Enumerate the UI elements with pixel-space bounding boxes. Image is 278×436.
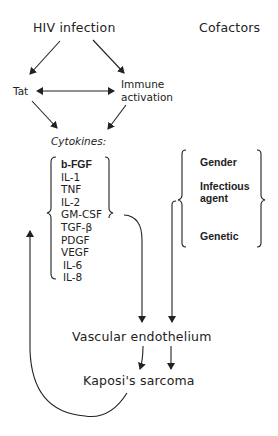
cofactor-brace-right [257, 150, 265, 247]
arrow-immune-to-cytokines [108, 105, 126, 129]
arrow-vascular-to-kaposi-left [140, 346, 143, 369]
cofactor-brace-left [178, 150, 186, 247]
arrow-feedback-loop [30, 231, 127, 417]
arrow-hiv-to-immune [93, 40, 124, 73]
arrow-hiv-to-tat [30, 41, 60, 74]
arrow-tat-to-cytokines [32, 101, 57, 128]
arrow-cofactors-to-vascular [172, 201, 176, 322]
pathogenesis-diagram: HIV infection Cofactors Tat Immune activ… [0, 0, 278, 436]
cytokine-brace-left [47, 157, 56, 279]
arrows-layer [0, 0, 278, 436]
arrow-cytokines-to-vascular [124, 215, 142, 322]
cytokine-brace-right [105, 157, 113, 218]
